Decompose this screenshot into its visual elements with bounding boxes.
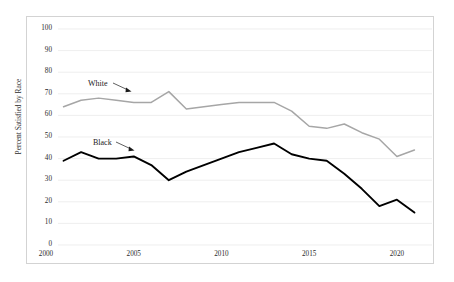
y-tick-label: 0 [30, 241, 52, 248]
y-tick-label: 60 [30, 111, 52, 118]
series-line-black [64, 143, 415, 212]
line-chart-canvas [0, 0, 454, 282]
x-tick-label: 2015 [292, 251, 326, 258]
series-label-black: Black [93, 139, 112, 147]
series-line-white [64, 92, 415, 157]
y-tick-label: 10 [30, 219, 52, 226]
chart-figure: 1009080706050403020100 20002005201020152… [0, 0, 454, 282]
y-tick-label: 20 [30, 198, 52, 205]
x-tick-label: 2000 [29, 251, 63, 258]
y-axis-title: Percent Satisfied by Race [14, 57, 23, 177]
y-tick-label: 90 [30, 47, 52, 54]
white-annotation-arrow-head [126, 88, 132, 93]
white-annotation-arrow-line [113, 83, 128, 90]
y-tick-label: 30 [30, 176, 52, 183]
x-tick-label: 2020 [380, 251, 414, 258]
black-annotation-arrow-line [116, 142, 131, 149]
y-tick-label: 50 [30, 133, 52, 140]
series-paths-group [64, 92, 415, 213]
y-tick-label: 100 [30, 25, 52, 32]
y-tick-label: 70 [30, 90, 52, 97]
annotation-arrows-group [113, 83, 135, 151]
y-tick-label: 40 [30, 155, 52, 162]
gridlines-group [58, 29, 432, 245]
x-tick-label: 2005 [117, 251, 151, 258]
black-annotation-arrow-head [129, 147, 135, 152]
y-tick-label: 80 [30, 68, 52, 75]
series-label-white: White [88, 80, 108, 88]
x-tick-label: 2010 [204, 251, 238, 258]
